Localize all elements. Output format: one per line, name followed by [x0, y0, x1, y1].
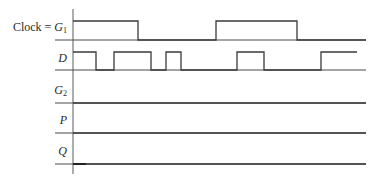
label-clock: Clock = G1	[13, 20, 67, 35]
signal-waveforms	[55, 21, 366, 164]
label-g2: G2	[54, 83, 67, 98]
label-d: D	[58, 51, 67, 66]
label-q: Q	[58, 144, 67, 159]
waveform-clock	[73, 21, 366, 40]
waveform-D	[73, 52, 357, 70]
label-p: P	[60, 113, 67, 128]
